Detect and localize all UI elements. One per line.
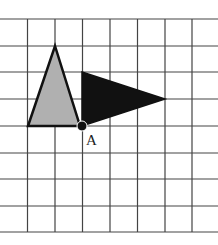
gray-triangle: [28, 46, 80, 126]
point-a-marker: [77, 121, 87, 131]
grid-diagram: A: [0, 0, 218, 245]
black-triangle: [82, 72, 165, 126]
point-a-label: A: [86, 132, 97, 148]
